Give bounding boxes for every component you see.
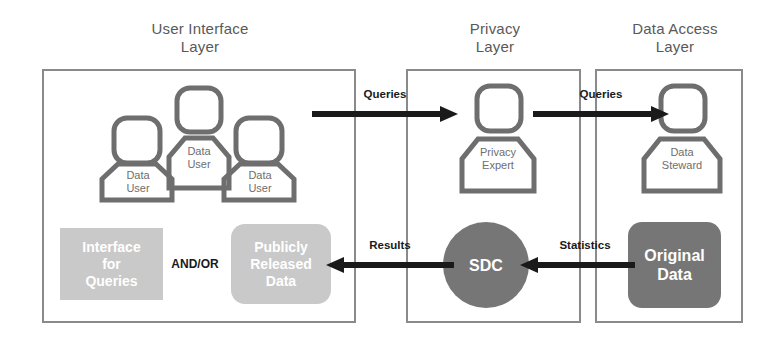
connector-and-or: AND/OR: [155, 257, 235, 271]
arrow-label-results: Results: [326, 239, 454, 251]
arrow-queries-privacy-to-access: [533, 106, 669, 122]
block-original-data[interactable]: Original Data: [628, 222, 721, 308]
arrow-statistics-original-to-sdc: [520, 257, 635, 273]
arrow-queries-ui-to-privacy: [312, 106, 458, 122]
layer-title-data-access: Data Access Layer: [600, 20, 750, 56]
block-publicly-released-data[interactable]: Publicly Released Data: [231, 224, 331, 304]
figure-data-user-right: Data User: [220, 115, 300, 203]
arrow-label-queries-ui-to-privacy: Queries: [312, 88, 458, 100]
figure-data-user-left: Data User: [98, 115, 178, 203]
diagram-canvas: User Interface Layer Privacy Layer Data …: [0, 0, 784, 340]
block-interface-for-queries[interactable]: Interface for Queries: [60, 228, 163, 300]
figure-privacy-expert: Privacy Expert: [458, 83, 538, 196]
layer-title-user-interface: User Interface Layer: [120, 20, 280, 56]
arrow-label-statistics: Statistics: [530, 239, 640, 251]
layer-title-privacy: Privacy Layer: [430, 20, 560, 56]
arrow-label-queries-privacy-to-access: Queries: [533, 88, 669, 100]
block-sdc[interactable]: SDC: [443, 222, 529, 308]
arrow-results-sdc-to-ui: [326, 257, 454, 273]
